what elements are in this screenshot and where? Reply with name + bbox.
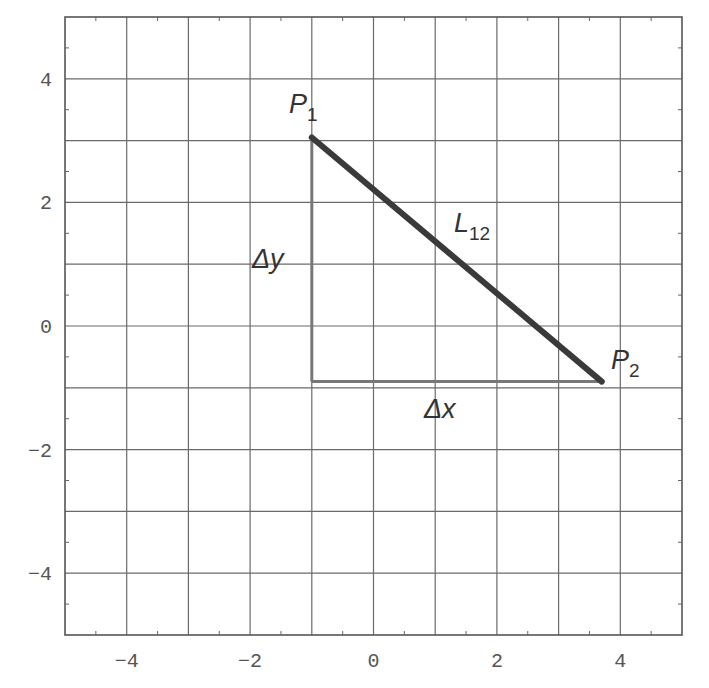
x-tick-label: −4 bbox=[115, 650, 139, 673]
grid-lines bbox=[65, 17, 682, 635]
label-L12: L12 bbox=[454, 208, 490, 244]
x-tick-label: 4 bbox=[614, 650, 626, 673]
y-axis-ticks: 420−2−4 bbox=[28, 69, 52, 586]
y-tick-label: 4 bbox=[40, 69, 52, 92]
y-tick-label: 2 bbox=[40, 192, 52, 215]
y-tick-label: −2 bbox=[28, 440, 52, 463]
label-P2: P2 bbox=[611, 345, 640, 381]
x-tick-label: −2 bbox=[238, 650, 262, 673]
x-tick-label: 2 bbox=[491, 650, 503, 673]
label-delta-x: Δx bbox=[423, 394, 457, 424]
y-tick-label: −4 bbox=[28, 563, 52, 586]
plot-canvas: −4−2024 420−2−4 P1 P2 L12 Δy Δx bbox=[0, 0, 709, 688]
label-delta-y: Δy bbox=[251, 244, 285, 274]
label-P1: P1 bbox=[289, 89, 318, 125]
x-axis-ticks: −4−2024 bbox=[115, 650, 627, 673]
y-tick-label: 0 bbox=[40, 316, 52, 339]
x-tick-label: 0 bbox=[367, 650, 379, 673]
